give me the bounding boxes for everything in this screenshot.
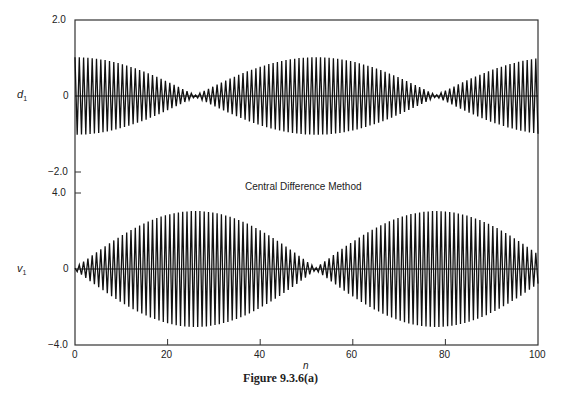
- x-axis-label: n: [303, 360, 309, 371]
- chart-subtitle: Central Difference Method: [245, 181, 362, 192]
- upper-ytick-0: 0: [63, 90, 69, 101]
- lower-ytick-0: 0: [63, 263, 69, 274]
- xtick-80: 80: [439, 349, 450, 360]
- xtick-20: 20: [161, 349, 172, 360]
- xtick-60: 60: [346, 349, 357, 360]
- lower-ytick-neg4: −4.0: [48, 339, 68, 350]
- upper-ytick-neg2: −2.0: [48, 166, 68, 177]
- lower-ylabel: v1: [17, 262, 26, 276]
- upper-ylabel: d1: [17, 88, 27, 102]
- y-ticks: [75, 172, 81, 193]
- chart-canvas: [0, 0, 561, 393]
- xtick-40: 40: [254, 349, 265, 360]
- upper-ylabel-sub: 1: [23, 95, 27, 102]
- xtick-100: 100: [529, 349, 546, 360]
- lower-ytick-4: 4.0: [52, 187, 66, 198]
- v1-series-line: [75, 211, 538, 327]
- xtick-0: 0: [72, 349, 78, 360]
- upper-ytick-2: 2.0: [52, 14, 66, 25]
- figure-caption: Figure 9.3.6(a): [0, 371, 561, 386]
- d1-series-line: [75, 57, 538, 135]
- lower-ylabel-sub: 1: [23, 269, 27, 276]
- x-ticks: [168, 339, 446, 345]
